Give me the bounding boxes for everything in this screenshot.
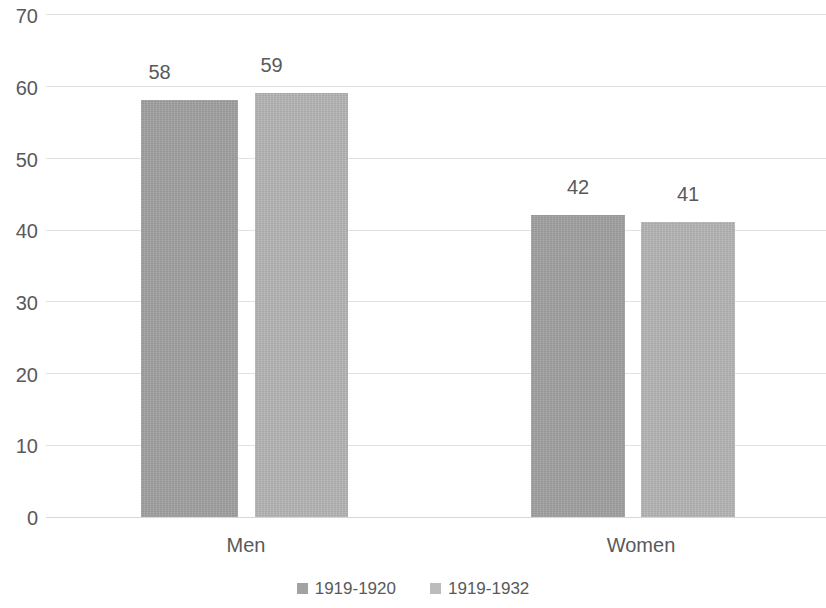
bar-men-1919-1920 — [141, 100, 238, 517]
chart-legend: 1919-1920 1919-1932 — [0, 580, 826, 597]
data-label-men-1919-1920: 58 — [111, 62, 208, 82]
legend-item-1919-1932[interactable]: 1919-1932 — [430, 580, 529, 597]
data-label-women-1919-1920: 42 — [531, 177, 625, 197]
data-label-men-1919-1932: 59 — [225, 55, 318, 75]
gridline-0 — [46, 517, 826, 518]
y-tick-label: 60 — [0, 78, 38, 98]
y-tick-label: 30 — [0, 293, 38, 313]
bar-chart: 70 60 50 40 30 20 10 0 58 59 42 41 Men W… — [0, 0, 826, 608]
y-tick-label: 50 — [0, 150, 38, 170]
legend-swatch-icon — [430, 583, 441, 594]
bar-women-1919-1920 — [531, 215, 625, 517]
data-label-women-1919-1932: 41 — [641, 184, 735, 204]
bar-men-1919-1932 — [255, 93, 348, 517]
y-tick-label: 20 — [0, 365, 38, 385]
legend-label: 1919-1920 — [315, 580, 396, 597]
category-label-women: Women — [541, 535, 741, 555]
legend-swatch-icon — [297, 583, 308, 594]
category-label-men: Men — [146, 535, 346, 555]
y-tick-label: 40 — [0, 221, 38, 241]
plot-area — [46, 14, 826, 517]
gridline-70 — [46, 14, 826, 15]
legend-label: 1919-1932 — [448, 580, 529, 597]
legend-item-1919-1920[interactable]: 1919-1920 — [297, 580, 396, 597]
y-tick-label: 0 — [0, 508, 38, 528]
bar-women-1919-1932 — [641, 222, 735, 517]
gridline-60 — [46, 86, 826, 87]
y-tick-label: 10 — [0, 436, 38, 456]
y-tick-label: 70 — [0, 6, 38, 26]
